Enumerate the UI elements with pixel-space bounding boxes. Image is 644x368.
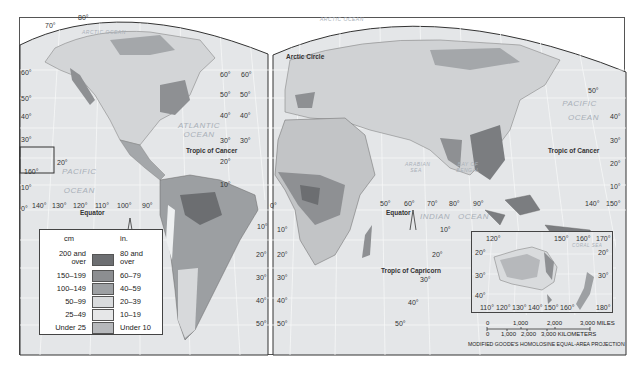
lat-label: 20° [220, 158, 231, 165]
scale-bar: 0 1,000 2,000 3,000 MILES 0 1,000 2,000 … [470, 320, 630, 354]
lon-label: 170° [596, 235, 610, 242]
label-tropic-cancer-east: Tropic of Cancer [548, 148, 599, 155]
lat-label: 40° [475, 292, 486, 299]
pacific-w-line2: OCEAN [62, 187, 96, 196]
legend-row: 200 and over 80 and over [40, 248, 164, 268]
ocean-label-atlantic: ATLANTIC OCEAN [178, 122, 220, 140]
legend-cm-value: 200 and over [46, 250, 86, 266]
lat-label: 50° [588, 87, 599, 94]
lat-label: 30° [475, 272, 486, 279]
lon-label: 130° [512, 304, 526, 311]
lat-label: 40° [610, 113, 621, 120]
legend-row: 100–149 40–59 [40, 283, 164, 297]
lat-label: 40° [277, 297, 288, 304]
ocean-label-indian: INDIAN [420, 213, 450, 222]
ocean-label-pacific-west: PACIFIC OCEAN [62, 168, 96, 196]
projection-label: MODIFIED GOODE'S HOMOLOSINE EQUAL-AREA P… [468, 341, 625, 347]
pacific-e-line1: PACIFIC [560, 100, 599, 109]
lon-label: 120° [496, 304, 510, 311]
lat-label: 30° [220, 137, 231, 144]
label-tropic-cancer-west: Tropic of Cancer [186, 148, 237, 155]
lon-label: 50° [380, 200, 391, 207]
lon-label: 180° [596, 304, 610, 311]
lat-label: 40° [408, 299, 419, 306]
lat-label: 30° [610, 137, 621, 144]
lon-label: 70° [427, 200, 438, 207]
scale-miles-0: 0 [486, 320, 489, 326]
lon-label: 100° [117, 202, 131, 209]
lat-label: 20° [57, 159, 68, 166]
lat-label: 60° [21, 69, 32, 76]
lat-label: 30° [277, 274, 288, 281]
legend-row: 50–99 20–39 [40, 296, 164, 310]
scale-km-2000: 2,000 [521, 331, 536, 337]
ocean-label-pacific-east: PACIFIC OCEAN [560, 100, 599, 123]
legend-cm-value: 25–49 [65, 311, 86, 319]
lat-label: 60° [241, 71, 252, 78]
legend-in-value: Under 10 [120, 324, 151, 332]
lat-label: 20° [610, 160, 621, 167]
lon-label: 60° [404, 200, 415, 207]
lon-label: 90° [142, 202, 153, 209]
indian-word1: INDIAN [420, 212, 450, 221]
pacific-w-line1: PACIFIC [62, 168, 96, 177]
legend-swatch [92, 254, 114, 266]
label-equator-west: Equator [80, 210, 105, 217]
lat-label: 0° [21, 205, 28, 212]
lat-label: 50° [277, 320, 288, 327]
lon-label: 160° [576, 235, 590, 242]
ocean-label-indian-2: OCEAN [458, 213, 489, 222]
lon-label: 90° [473, 200, 484, 207]
legend-row: 25–49 10–19 [40, 309, 164, 323]
atlantic-line2: OCEAN [178, 131, 220, 140]
lat-label: 30° [256, 274, 267, 281]
pacific-e-line2: OCEAN [568, 114, 599, 123]
lat-label: 10° [610, 183, 621, 190]
ocean-label-arctic-east: ARCTIC OCEAN [320, 17, 364, 23]
legend-unit-in: in. [120, 234, 128, 243]
scale-miles-1000: 1,000 [513, 320, 528, 326]
label-tropic-capricorn: Tropic of Capricorn [381, 268, 441, 275]
scale-km-3000: 3,000 KILOMETERS [541, 331, 596, 337]
lon-label: 160° [24, 168, 38, 175]
lon-label: 150° [606, 200, 620, 207]
legend-row: Under 25 Under 10 [40, 322, 164, 336]
legend-cm-value: 50–99 [65, 298, 86, 306]
lat-label: 60° [220, 71, 231, 78]
lon-label: 110° [480, 304, 494, 311]
legend-swatch [92, 309, 114, 321]
lon-label: 140° [32, 202, 46, 209]
lat-label: 0° [270, 202, 277, 209]
legend-unit-cm: cm [64, 234, 74, 243]
lat-label: 20° [277, 251, 288, 258]
lat-label: 30° [21, 136, 32, 143]
legend-in-value: 40–59 [120, 285, 141, 293]
legend-cm-value: 150–199 [57, 272, 86, 280]
lon-label: 80° [449, 200, 460, 207]
lat-label: 40° [240, 112, 251, 119]
legend-in-value: 80 and over [120, 250, 156, 266]
lat-label: 10° [21, 184, 32, 191]
scale-miles-3000: 3,000 MILES [580, 320, 615, 326]
precipitation-legend: cm in. 200 and over 80 and over 150–199 … [39, 229, 163, 335]
label-arctic-circle: Arctic Circle [286, 54, 324, 61]
ocean-label-arctic-west: ARCTIC OCEAN [82, 30, 126, 36]
lat-label: 50° [395, 320, 406, 327]
legend-swatch [92, 322, 114, 334]
legend-swatch [92, 283, 114, 295]
lon-label: 110° [95, 202, 109, 209]
lat-label: 70° [45, 22, 56, 29]
lon-label: 120° [486, 235, 500, 242]
lat-label: 20° [432, 251, 443, 258]
lat-label: 80° [78, 14, 89, 21]
australia-inset: CORAL SEA 120° 150° 160° 170° 20° 30° 40… [471, 231, 613, 313]
lon-label: 120° [73, 202, 87, 209]
lat-label: 30° [240, 137, 251, 144]
lat-label: 30° [420, 276, 431, 283]
lat-label: 10° [277, 226, 288, 233]
legend-swatch [92, 296, 114, 308]
lat-label: 20° [256, 251, 267, 258]
lat-label: 50° [21, 95, 32, 102]
legend-cm-value: 100–149 [57, 285, 86, 293]
legend-cm-value: Under 25 [55, 324, 86, 332]
